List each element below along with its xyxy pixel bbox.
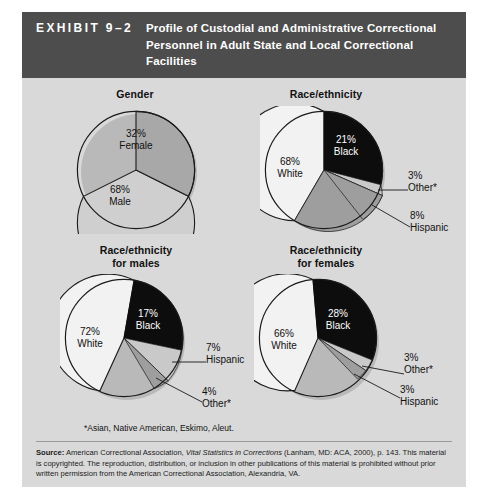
race-all-hispanic-name: Hispanic <box>410 222 448 233</box>
race-all-other-name: Other* <box>408 182 437 193</box>
race-males-label-white: 72% White <box>60 326 120 350</box>
race-females-other-pct: 3% <box>404 352 418 363</box>
chart-race-females-title: Race/ethnicity for females <box>214 244 438 269</box>
race-all-black-pct: 21% <box>336 134 356 145</box>
race-all-label-white: 68% White <box>260 156 320 180</box>
race-males-white-pct: 72% <box>80 326 100 337</box>
race-females-hispanic-pct: 3% <box>400 384 414 395</box>
source-text-part1: American Correctional Association, <box>64 448 186 457</box>
race-females-black-name: Black <box>326 320 350 331</box>
exhibit-panel: EXHIBIT 9–2 Profile of Custodial and Adm… <box>22 12 466 487</box>
chart-race-females-title-line2: for females <box>297 257 354 269</box>
race-males-black-pct: 17% <box>138 308 158 319</box>
footnote-asterisk: *Asian, Native American, Eskimo, Aleut. <box>84 423 234 433</box>
chart-gender: Gender 32% Female 68% Male <box>30 88 240 240</box>
chart-race-females-pie: 66% White 28% Black 3% Other* 3% Hispani… <box>254 274 382 402</box>
race-all-white-name: White <box>277 168 303 179</box>
race-all-hispanic-pct: 8% <box>410 210 424 221</box>
race-all-label-other: 3% Other* <box>408 170 468 194</box>
chart-race-all-title: Race/ethnicity <box>214 88 438 101</box>
race-males-hispanic-pct: 7% <box>206 342 220 353</box>
gender-male-pct: 68% <box>110 184 130 195</box>
chart-race-males-pie: 72% White 17% Black 7% Hispanic 4% Other… <box>60 274 188 402</box>
race-males-other-name: Other* <box>202 398 231 409</box>
race-females-black-pct: 28% <box>328 308 348 319</box>
race-females-label-hispanic: 3% Hispanic <box>400 384 470 408</box>
chart-race-males-title-line2: for males <box>112 257 160 269</box>
race-all-label-hispanic: 8% Hispanic <box>410 210 480 234</box>
race-females-other-name: Other* <box>404 364 433 375</box>
race-females-label-black: 28% Black <box>310 308 366 332</box>
exhibit-header-bar: EXHIBIT 9–2 Profile of Custodial and Adm… <box>22 12 466 78</box>
chart-gender-pie: 32% Female 68% Male <box>72 106 200 234</box>
chart-race-ethnicity-females: Race/ethnicity for females 66% White <box>238 244 462 414</box>
gender-male-name: Male <box>109 196 131 207</box>
source-note: Source: American Correctional Associatio… <box>36 448 452 480</box>
race-all-white-pct: 68% <box>280 156 300 167</box>
chart-race-ethnicity-males: Race/ethnicity for males 72% White <box>30 244 254 414</box>
race-males-label-black: 17% Black <box>120 308 176 332</box>
chart-race-females-title-line1: Race/ethnicity <box>290 244 363 256</box>
race-females-hispanic-name: Hispanic <box>400 396 438 407</box>
race-females-white-name: White <box>271 340 297 351</box>
race-males-other-pct: 4% <box>202 386 216 397</box>
source-title-italic: Vital Statistics in Corrections <box>186 448 282 457</box>
race-females-label-white: 66% White <box>254 328 314 352</box>
race-females-white-pct: 66% <box>274 328 294 339</box>
race-females-label-other: 3% Other* <box>404 352 464 376</box>
chart-race-all-pie: 68% White 21% Black 3% Other* 8% Hispani… <box>260 106 388 234</box>
race-males-black-name: Black <box>136 320 160 331</box>
race-all-other-pct: 3% <box>408 170 422 181</box>
source-divider <box>36 441 452 442</box>
exhibit-number: EXHIBIT 9–2 <box>36 21 133 35</box>
chart-gender-title: Gender <box>30 88 240 101</box>
source-label: Source: <box>36 448 64 457</box>
race-all-label-black: 21% Black <box>318 134 374 158</box>
pie-svg-gender <box>72 106 200 234</box>
gender-female-pct: 32% <box>126 128 146 139</box>
race-males-white-name: White <box>77 338 103 349</box>
chart-race-ethnicity-all: Race/ethnicity 68% White <box>238 88 462 248</box>
chart-race-males-title-line1: Race/ethnicity <box>100 244 173 256</box>
gender-label-male: 68% Male <box>90 184 150 208</box>
exhibit-title: Profile of Custodial and Administrative … <box>146 20 452 70</box>
gender-female-name: Female <box>119 140 152 151</box>
race-all-black-name: Black <box>334 146 358 157</box>
gender-label-female: 32% Female <box>106 128 166 152</box>
